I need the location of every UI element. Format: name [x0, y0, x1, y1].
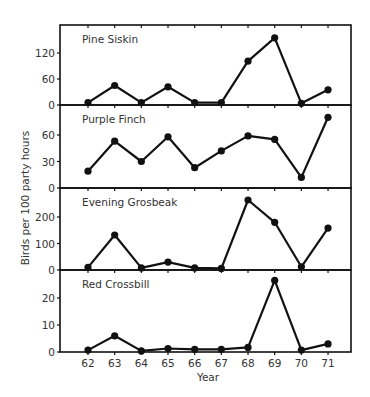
x-tick-label: 64	[135, 357, 149, 369]
series-line	[88, 200, 328, 268]
x-tick-label: 66	[188, 357, 202, 369]
panel-purple-finch: 03060Purple Finch	[42, 105, 351, 194]
y-axis-title: Birds per 100 party hours	[19, 131, 31, 266]
y-tick-label: 0	[48, 346, 55, 358]
x-tick-label: 67	[215, 357, 228, 369]
data-point	[244, 132, 251, 139]
y-tick-label: 120	[35, 47, 55, 59]
x-tick-label: 62	[81, 357, 94, 369]
x-axis-title: Year	[196, 371, 220, 383]
data-point	[271, 219, 278, 226]
data-point	[191, 346, 198, 353]
x-tick-label: 70	[295, 357, 308, 369]
x-tick-label: 68	[241, 357, 254, 369]
y-tick-label: 10	[42, 319, 55, 331]
data-point	[164, 83, 171, 90]
x-tick-label: 69	[268, 357, 281, 369]
y-tick-label: 20	[42, 292, 55, 304]
panel-red-crossbill: 01020Red Crossbill	[42, 270, 351, 358]
y-tick-label: 60	[42, 129, 55, 141]
data-point	[244, 196, 251, 203]
chart-canvas: 060120Pine Siskin03060Purple Finch010020…	[0, 0, 370, 397]
data-point	[84, 168, 91, 175]
data-point	[244, 344, 251, 351]
data-point	[111, 138, 118, 145]
x-axis: 62636465666768697071	[81, 352, 334, 369]
y-tick-label: 30	[42, 156, 55, 168]
series-line	[88, 117, 328, 177]
data-point	[218, 147, 225, 154]
data-point	[191, 164, 198, 171]
data-point	[111, 231, 118, 238]
stacked-line-chart: 060120Pine Siskin03060Purple Finch010020…	[0, 0, 370, 397]
data-point	[324, 225, 331, 232]
data-point	[164, 345, 171, 352]
x-tick-label: 65	[161, 357, 174, 369]
panel-evening-grosbeak: 0100200Evening Grosbeak	[35, 188, 351, 276]
y-tick-label: 100	[35, 238, 55, 250]
y-tick-label: 0	[48, 264, 55, 276]
y-tick-label: 60	[42, 73, 55, 85]
x-tick-label: 71	[321, 357, 334, 369]
data-point	[271, 34, 278, 41]
data-point	[218, 346, 225, 353]
chart-panels: 060120Pine Siskin03060Purple Finch010020…	[35, 25, 351, 358]
data-point	[324, 114, 331, 121]
data-point	[138, 158, 145, 165]
data-point	[298, 174, 305, 181]
panel-title: Purple Finch	[82, 113, 146, 125]
data-point	[164, 259, 171, 266]
data-point	[271, 136, 278, 143]
panel-title: Evening Grosbeak	[82, 196, 178, 208]
data-point	[271, 277, 278, 284]
y-tick-label: 0	[48, 182, 55, 194]
series-line	[88, 280, 328, 351]
x-tick-label: 63	[108, 357, 121, 369]
data-point	[244, 58, 251, 65]
panel-pine-siskin: 060120Pine Siskin	[35, 25, 351, 111]
data-point	[164, 133, 171, 140]
data-point	[324, 86, 331, 93]
panel-title: Red Crossbill	[82, 278, 150, 290]
y-tick-label: 200	[35, 211, 55, 223]
data-point	[111, 332, 118, 339]
y-tick-label: 0	[48, 99, 55, 111]
data-point	[324, 340, 331, 347]
data-point	[111, 82, 118, 89]
series-line	[88, 38, 328, 104]
panel-title: Pine Siskin	[82, 33, 138, 45]
